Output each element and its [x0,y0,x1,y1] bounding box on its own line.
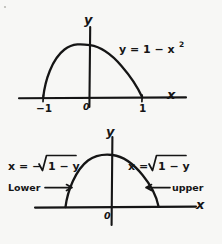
upper-x-axis-label: x [166,87,176,102]
upper-equation-label: y = 1 − x [119,43,175,56]
upper-tick-label-neg-one: −1 [36,102,52,114]
lower-left-arrow [45,185,72,191]
lower-left-equation: x = − [8,160,41,173]
figure-canvas: y x −1 0 1 y = 1 − x 2 y x 0 x = − [0,0,222,244]
lower-right-word-label: upper [172,182,204,193]
lower-right-arrow [146,185,170,191]
upper-panel: y x −1 0 1 y = 1 − x 2 [19,12,186,114]
upper-tick-label-one: 1 [139,102,146,114]
lower-x-axis-label: x [195,197,205,212]
upper-y-axis-label: y [84,12,93,27]
paper-speck [4,6,6,8]
lower-left-word-label: Lower [8,182,41,193]
upper-equation-exponent: 2 [179,40,184,49]
lower-origin-label: 0 [104,210,111,221]
lower-left-radicand: 1 − y [48,160,80,173]
lower-y-axis-label: y [106,124,115,139]
upper-origin-label: 0 [83,101,90,112]
lower-right-equation: x = [128,160,148,173]
lower-x-axis [35,207,196,208]
sketch-page: y x −1 0 1 y = 1 − x 2 y x 0 x = − [0,0,222,244]
lower-y-axis [112,137,113,225]
lower-right-radicand: 1 − y [158,160,190,173]
lower-panel: y x 0 x = − 1 − y Lower x = 1 − y upper [8,124,205,225]
upper-y-axis [89,27,90,107]
